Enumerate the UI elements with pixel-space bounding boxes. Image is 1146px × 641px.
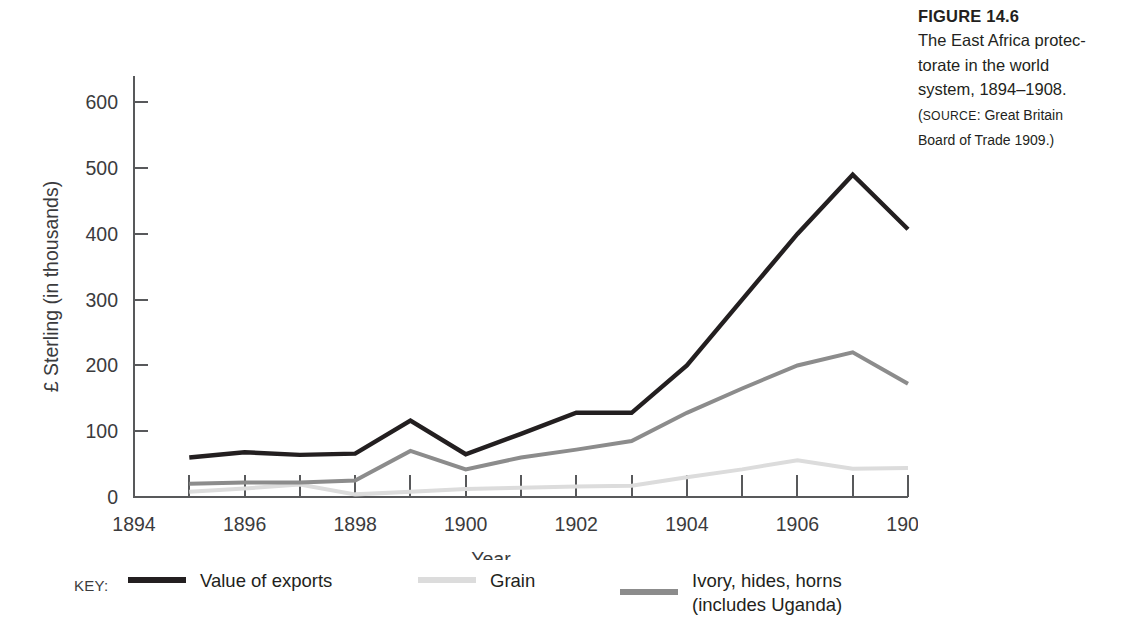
- legend-entry-value-of-exports: Value of exports: [128, 569, 332, 593]
- legend-label-grain: Grain: [490, 569, 535, 593]
- x-tick-label-1896: 1896: [223, 513, 266, 535]
- figure-chart: 0100200300400500600189418961898190019021…: [0, 0, 918, 560]
- legend-swatch-ivory-hides-horns: [620, 589, 678, 595]
- figure-number: FIGURE 14.6: [918, 4, 1140, 28]
- series-line-grain: [189, 460, 908, 494]
- legend-swatch-value-of-exports: [128, 577, 186, 583]
- legend-label-ivory-hides-horns-line2: (includes Uganda): [692, 593, 842, 617]
- x-tick-label-1904: 1904: [665, 513, 709, 535]
- y-tick-label-300: 300: [85, 289, 118, 311]
- y-tick-label-200: 200: [85, 354, 118, 376]
- chart-legend: KEY: Value of exports Grain Ivory, hides…: [0, 565, 918, 641]
- caption-source-line-1: (SOURCE: Great Britain: [918, 103, 1140, 129]
- legend-swatch-grain: [418, 577, 476, 583]
- y-axis-title: £ Sterling (in thousands): [40, 181, 62, 392]
- y-tick-label-400: 400: [85, 223, 118, 245]
- series-line-ivory-hides-horns-includes-uganda: [189, 352, 908, 484]
- y-tick-label-600: 600: [85, 91, 118, 113]
- y-tick-label-0: 0: [107, 486, 118, 508]
- caption-line-2: torate in the world: [918, 53, 1140, 78]
- x-tick-label-1906: 1906: [776, 513, 819, 535]
- legend-label-value-of-exports: Value of exports: [200, 569, 332, 593]
- x-tick-label-1900: 1900: [444, 513, 488, 535]
- caption-line-3: system, 1894–1908.: [918, 77, 1140, 102]
- source-label: SOURCE: [923, 109, 977, 123]
- x-tick-label-1898: 1898: [333, 513, 376, 535]
- legend-label-ivory-hides-horns: Ivory, hides, horns: [692, 569, 842, 593]
- x-tick-label-1908: 1908: [886, 513, 918, 535]
- figure-source-note: (SOURCE: Great Britain Board of Trade 19…: [918, 103, 1140, 153]
- source-text: : Great Britain: [977, 107, 1063, 123]
- x-tick-label-1894: 1894: [112, 513, 156, 535]
- legend-entry-ivory-hides-horns: Ivory, hides, horns(includes Uganda): [620, 569, 842, 617]
- figure-caption-block: FIGURE 14.6 The East Africa protec- tora…: [918, 4, 1140, 153]
- caption-source-line-2: Board of Trade 1909.): [918, 128, 1140, 153]
- figure-caption-text: The East Africa protec- torate in the wo…: [918, 28, 1140, 102]
- legend-entry-grain: Grain: [418, 569, 535, 593]
- y-tick-label-500: 500: [85, 157, 118, 179]
- line-chart-svg: 0100200300400500600189418961898190019021…: [0, 0, 918, 560]
- series-line-value-of-exports: [189, 175, 908, 458]
- caption-line-1: The East Africa protec-: [918, 28, 1140, 53]
- x-axis-title: Year: [471, 548, 511, 560]
- x-tick-label-1902: 1902: [555, 513, 598, 535]
- y-tick-label-100: 100: [85, 420, 118, 442]
- legend-key-word: KEY:: [74, 577, 109, 594]
